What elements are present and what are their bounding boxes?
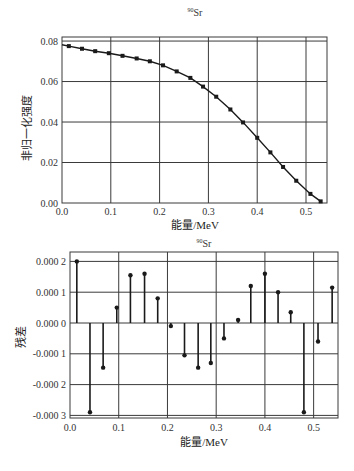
residual-point (169, 324, 173, 328)
y-tick-label: 0.02 (41, 157, 59, 168)
data-point-marker (228, 107, 232, 111)
residual-point (289, 310, 293, 314)
x-axis-label: 能量/MeV (171, 218, 219, 231)
x-tick-label: 0.5 (300, 206, 313, 217)
data-point-marker (214, 95, 218, 99)
data-point-marker (135, 56, 139, 60)
x-tick-label: 0.2 (153, 206, 166, 217)
x-tick-label: 0.0 (64, 422, 77, 433)
residual-point (115, 305, 119, 309)
data-point-marker (268, 150, 272, 154)
data-point-marker (121, 54, 125, 58)
data-point-marker (93, 49, 97, 53)
data-point-marker (148, 59, 152, 63)
x-tick-label: 0.5 (307, 422, 320, 433)
y-tick-label: -0.000 2 (33, 379, 66, 390)
fit-curve (62, 45, 321, 202)
y-tick-label: -0.000 3 (33, 410, 66, 421)
residual-point (222, 336, 226, 340)
y-tick-label: -0.000 1 (33, 348, 66, 359)
residual-point (316, 339, 320, 343)
plot-frame (70, 252, 338, 418)
y-tick-label: 0.000 1 (36, 287, 66, 298)
y-tick-labels: 0.000 20.000 10.000 0-0.000 1-0.000 2-0.… (33, 256, 66, 421)
residual-point (276, 290, 280, 294)
x-tick-label: 0.1 (112, 422, 125, 433)
data-point-marker (241, 120, 245, 124)
y-tick-label: 0.04 (41, 117, 59, 128)
grid (70, 252, 338, 418)
y-axis-label: 残差 (14, 326, 27, 348)
residual-point (249, 284, 253, 288)
x-tick-label: 0.4 (251, 206, 264, 217)
residual-point (236, 318, 240, 322)
data-point-marker (294, 179, 298, 183)
data-point-marker (281, 165, 285, 169)
residual-point (156, 296, 160, 300)
x-axis-label: 能量/MeV (180, 435, 228, 448)
y-tick-label: 0.08 (41, 36, 59, 47)
y-tick-label: 0.000 2 (36, 256, 66, 267)
chart-canvas: 90Sr 0.000.020.040.060.08 0.00.10.20.30.… (0, 0, 354, 471)
data-point-marker (188, 76, 192, 80)
y-tick-label: 0.06 (41, 76, 59, 87)
residual-point (302, 410, 306, 414)
plot-frame (62, 37, 327, 203)
residual-point (209, 361, 213, 365)
grid (62, 37, 327, 203)
data-point-marker (255, 136, 259, 140)
data-point-marker (80, 47, 84, 51)
data-point-marker (319, 199, 323, 203)
y-tick-label: 0.000 0 (36, 318, 66, 329)
x-tick-label: 0.1 (105, 206, 118, 217)
y-tick-labels: 0.000.020.040.060.08 (41, 36, 59, 209)
x-tick-label: 0.3 (202, 206, 215, 217)
residual-point (196, 365, 200, 369)
residual-point (75, 259, 79, 263)
residual-chart: 90Sr 0.000 20.000 10.000 0-0.000 1-0.000… (14, 238, 338, 448)
intensity-chart: 90Sr 0.000.020.040.060.08 0.00.10.20.30.… (20, 7, 327, 231)
x-tick-labels: 0.00.10.20.30.40.5 (56, 206, 313, 217)
data-point-marker (175, 69, 179, 73)
data-point-marker (107, 51, 111, 55)
data-markers (67, 44, 323, 203)
residual-point (88, 410, 92, 414)
data-point-marker (201, 85, 205, 89)
residual-point (101, 365, 105, 369)
data-point-marker (67, 44, 71, 48)
residual-point (330, 285, 334, 289)
chart-title: 90Sr (188, 7, 204, 18)
data-point-marker (161, 63, 165, 67)
x-tick-label: 0.0 (56, 206, 69, 217)
residual-point (128, 273, 132, 277)
residual-point (263, 272, 267, 276)
residual-stems (75, 259, 335, 414)
residual-point (182, 353, 186, 357)
residual-point (142, 272, 146, 276)
y-axis-label: 非归一化强度 (20, 95, 33, 161)
x-tick-labels: 0.00.10.20.30.40.5 (64, 422, 320, 433)
data-point-marker (308, 192, 312, 196)
x-tick-label: 0.4 (259, 422, 272, 433)
x-tick-label: 0.2 (161, 422, 174, 433)
chart-title: 90Sr (197, 238, 213, 249)
x-tick-label: 0.3 (210, 422, 223, 433)
